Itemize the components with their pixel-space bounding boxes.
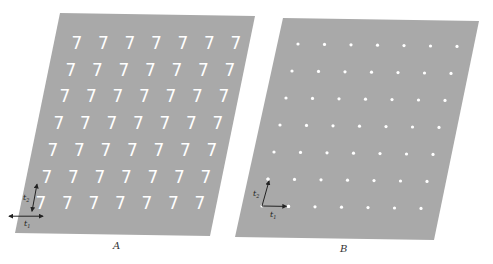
lattice-point	[370, 71, 373, 74]
lattice-motif-seven: 7	[198, 60, 209, 80]
lattice-motif-seven: 7	[42, 167, 53, 187]
lattice-point	[346, 179, 349, 182]
lattice-point	[402, 44, 405, 47]
lattice-point	[352, 152, 355, 155]
lattice-motif-seven: 7	[142, 193, 153, 213]
panel-b-point-lattice: t1t2	[235, 18, 479, 240]
lattice-motif-seven: 7	[178, 33, 189, 53]
lattice-motif-seven: 7	[195, 193, 206, 213]
lattice-motif-seven: 7	[225, 60, 236, 80]
lattice-point	[358, 125, 361, 128]
lattice-point	[313, 205, 316, 208]
lattice-point	[366, 206, 369, 209]
lattice-point	[343, 70, 346, 73]
lattice-figure: 7777777777777777777777777777777777777777…	[0, 0, 493, 264]
lattice-point	[284, 96, 287, 99]
lattice-point	[305, 124, 308, 127]
panel-b-background	[235, 18, 479, 240]
lattice-motif-seven: 7	[148, 167, 159, 187]
lattice-point	[266, 177, 269, 180]
lattice-motif-seven: 7	[115, 193, 126, 213]
lattice-point	[405, 152, 408, 155]
lattice-motif-seven: 7	[113, 86, 124, 106]
lattice-motif-seven: 7	[180, 140, 191, 160]
lattice-motif-seven: 7	[121, 167, 132, 187]
lattice-motif-seven: 7	[125, 33, 136, 53]
lattice-motif-seven: 7	[98, 33, 109, 53]
panel-a-motif-lattice: 7777777777777777777777777777777777777777…	[9, 13, 255, 236]
lattice-motif-seven: 7	[154, 140, 165, 160]
lattice-point	[449, 72, 452, 75]
lattice-point	[319, 178, 322, 181]
lattice-point	[290, 69, 293, 72]
lattice-motif-seven: 7	[133, 113, 144, 133]
lattice-motif-seven: 7	[145, 60, 156, 80]
lattice-motif-seven: 7	[201, 167, 212, 187]
lattice-motif-seven: 7	[213, 113, 224, 133]
lattice-point	[287, 205, 290, 208]
lattice-motif-seven: 7	[107, 113, 118, 133]
panel-a-label: A	[113, 240, 120, 251]
lattice-motif-seven: 7	[219, 86, 230, 106]
lattice-point	[349, 43, 352, 46]
lattice-motif-seven: 7	[72, 33, 83, 53]
lattice-point	[364, 98, 367, 101]
lattice-motif-seven: 7	[127, 140, 138, 160]
lattice-point	[423, 71, 426, 74]
lattice-motif-seven: 7	[186, 113, 197, 133]
lattice-point	[331, 124, 334, 127]
lattice-motif-seven: 7	[95, 167, 106, 187]
lattice-motif-seven: 7	[101, 140, 112, 160]
lattice-point	[417, 98, 420, 101]
lattice-motif-seven: 7	[80, 113, 91, 133]
lattice-point	[393, 206, 396, 209]
lattice-point	[419, 207, 422, 210]
lattice-motif-seven: 7	[166, 86, 177, 106]
lattice-point	[337, 97, 340, 100]
lattice-point	[311, 97, 314, 100]
lattice-motif-seven: 7	[192, 86, 203, 106]
lattice-motif-seven: 7	[68, 167, 79, 187]
lattice-motif-seven: 7	[60, 86, 71, 106]
lattice-point	[443, 99, 446, 102]
lattice-point	[372, 179, 375, 182]
lattice-motif-seven: 7	[74, 140, 85, 160]
lattice-point	[431, 153, 434, 156]
lattice-motif-seven: 7	[92, 60, 103, 80]
lattice-point	[323, 43, 326, 46]
lattice-point	[325, 151, 328, 154]
lattice-point	[390, 98, 393, 101]
lattice-motif-seven: 7	[48, 140, 59, 160]
lattice-motif-seven: 7	[151, 33, 162, 53]
lattice-point	[272, 150, 275, 153]
lattice-point	[429, 44, 432, 47]
lattice-point	[278, 123, 281, 126]
lattice-point	[399, 179, 402, 182]
lattice-point	[384, 125, 387, 128]
lattice-motif-seven: 7	[54, 113, 65, 133]
lattice-point	[296, 42, 299, 45]
lattice-point	[293, 178, 296, 181]
lattice-motif-seven: 7	[139, 86, 150, 106]
lattice-motif-seven: 7	[160, 113, 171, 133]
lattice-motif-seven: 7	[231, 33, 242, 53]
lattice-point	[299, 151, 302, 154]
lattice-motif-seven: 7	[89, 193, 100, 213]
lattice-point	[317, 70, 320, 73]
lattice-point	[411, 125, 414, 128]
lattice-point	[376, 44, 379, 47]
lattice-motif-seven: 7	[119, 60, 130, 80]
lattice-point	[425, 180, 428, 183]
lattice-motif-seven: 7	[168, 193, 179, 213]
panel-b-label: B	[340, 243, 347, 254]
lattice-point	[378, 152, 381, 155]
lattice-motif-seven: 7	[172, 60, 183, 80]
lattice-point	[437, 126, 440, 129]
lattice-point	[340, 206, 343, 209]
lattice-motif-seven: 7	[62, 193, 73, 213]
lattice-motif-seven: 7	[204, 33, 215, 53]
lattice-motif-seven: 7	[66, 60, 77, 80]
lattice-point	[396, 71, 399, 74]
lattice-motif-seven: 7	[174, 167, 185, 187]
lattice-motif-seven: 7	[207, 140, 218, 160]
